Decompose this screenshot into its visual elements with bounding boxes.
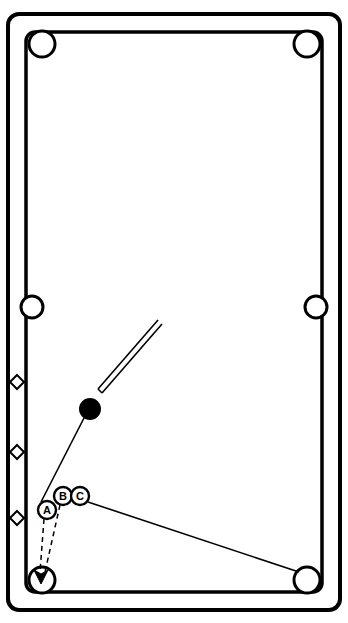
object-ball-b-label: B xyxy=(59,490,67,502)
pool-table-svg: A B C xyxy=(0,0,348,623)
pocket-top-right xyxy=(294,31,320,57)
pool-table-diagram: A B C xyxy=(0,0,348,623)
object-ball-c-label: C xyxy=(76,490,84,502)
table-inner-cloth xyxy=(26,32,322,592)
pocket-side-left xyxy=(21,296,43,318)
pocket-top-left xyxy=(29,31,55,57)
pocket-side-right xyxy=(305,296,327,318)
object-ball-a-label: A xyxy=(43,504,51,516)
cue-ball xyxy=(80,399,100,419)
